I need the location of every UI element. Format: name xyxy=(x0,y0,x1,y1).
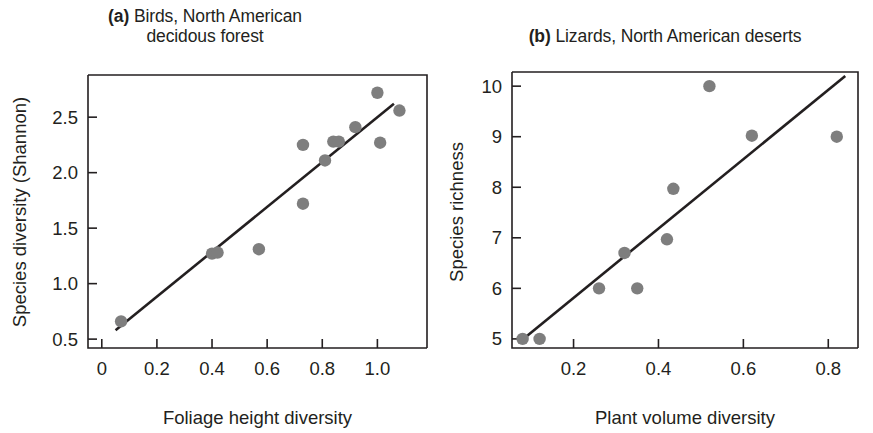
data-point xyxy=(593,282,605,294)
data-point xyxy=(115,315,127,327)
data-point xyxy=(661,233,673,245)
data-point xyxy=(211,246,223,258)
data-point xyxy=(297,139,309,151)
data-point xyxy=(253,243,265,255)
y-tick-label: 8 xyxy=(492,177,502,198)
x-tick-label: 1.0 xyxy=(365,358,391,379)
panel-b-y-axis-label: Species richness xyxy=(446,142,467,282)
x-tick-label: 0.6 xyxy=(254,358,280,379)
x-tick-label: 0.2 xyxy=(561,358,587,379)
y-tick-label: 1.5 xyxy=(52,218,78,239)
data-point xyxy=(349,121,361,133)
y-tick-label: 5 xyxy=(492,328,502,349)
data-point xyxy=(667,183,679,195)
data-point xyxy=(533,333,545,345)
x-tick-label: 0.2 xyxy=(144,358,170,379)
x-tick-label: 0.8 xyxy=(309,358,335,379)
data-point xyxy=(516,333,528,345)
panel-b: (b) Lizards, North American deserts 0.20… xyxy=(437,0,873,433)
panel-b-regression-line xyxy=(518,76,845,343)
y-tick-label: 0.5 xyxy=(52,329,78,350)
figure-container: (a) Birds, North American decidous fores… xyxy=(0,0,873,433)
y-tick-label: 2.0 xyxy=(52,162,78,183)
panel-a-x-axis-label: Foliage height diversity xyxy=(163,407,353,428)
x-tick-label: 0.8 xyxy=(815,358,841,379)
data-point xyxy=(631,282,643,294)
panel-a-regression-line xyxy=(116,104,394,330)
data-point xyxy=(319,154,331,166)
panel-a-data-points xyxy=(115,87,406,328)
panel-a-axes xyxy=(88,75,427,348)
y-tick-label: 7 xyxy=(492,227,502,248)
data-point xyxy=(703,80,715,92)
panel-a-plot: 00.20.40.60.81.00.51.01.52.02.5 Foliage … xyxy=(0,0,437,433)
y-tick-label: 6 xyxy=(492,278,502,299)
y-tick-label: 10 xyxy=(481,76,502,97)
panel-a: (a) Birds, North American decidous fores… xyxy=(0,0,437,433)
data-point xyxy=(374,136,386,148)
panel-b-x-axis-label: Plant volume diversity xyxy=(595,407,776,428)
x-tick-label: 0.6 xyxy=(731,358,757,379)
x-tick-label: 0.4 xyxy=(646,358,672,379)
data-point xyxy=(831,131,843,143)
x-tick-label: 0.4 xyxy=(199,358,225,379)
y-tick-label: 9 xyxy=(492,126,502,147)
panel-a-y-axis-label: Species diversity (Shannon) xyxy=(9,97,30,327)
data-point xyxy=(297,198,309,210)
x-tick-label: 0 xyxy=(97,358,107,379)
data-point xyxy=(333,135,345,147)
data-point xyxy=(618,247,630,259)
panel-b-plot: 0.20.40.60.85678910 Plant volume diversi… xyxy=(437,0,873,433)
y-tick-label: 2.5 xyxy=(52,107,78,128)
y-tick-label: 1.0 xyxy=(52,273,78,294)
data-point xyxy=(371,87,383,99)
data-point xyxy=(746,129,758,141)
data-point xyxy=(393,104,405,116)
